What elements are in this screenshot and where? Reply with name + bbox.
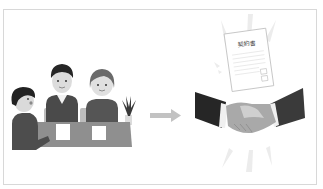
contract-document: 契約書: [224, 28, 274, 91]
plant: [122, 96, 136, 125]
illustration: 契約書: [0, 0, 323, 189]
handshake-scene: 契約書: [195, 14, 305, 172]
person-man-center: [46, 64, 78, 131]
meeting-scene: [11, 64, 136, 150]
right-arrow-icon: [150, 109, 181, 122]
person-woman: [86, 69, 118, 131]
